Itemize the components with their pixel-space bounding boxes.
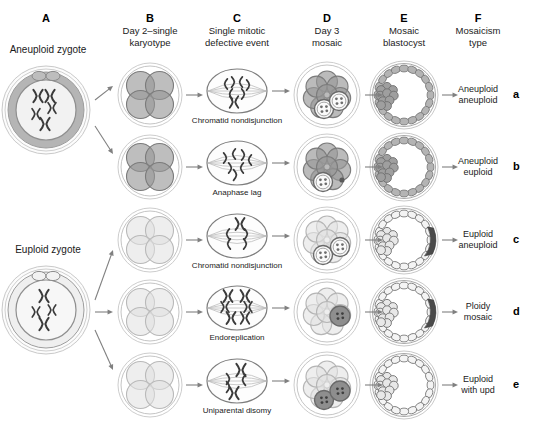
day3-mosaic-row-e [290, 348, 364, 422]
column-caption: Mosaicism type [423, 25, 533, 48]
arrow-zygote1-row-b [87, 118, 121, 162]
row-letter-d: d [513, 305, 520, 317]
arrow-e-f-row-c [434, 232, 466, 248]
column-letter: F [423, 12, 533, 25]
zygote-aneuploid [0, 60, 96, 160]
arrow-b-c-row-e [178, 377, 211, 393]
arrow-zygote2-row-d [87, 304, 121, 320]
zygote-label-euploid: Euploid zygote [0, 244, 96, 255]
arrow-e-f-row-e [434, 377, 466, 393]
day3-mosaic-row-b [290, 130, 364, 204]
row-letter-b: b [513, 160, 520, 172]
arrow-d-e-row-c [357, 232, 391, 248]
day3-mosaic-row-c [290, 203, 364, 277]
diagram-canvas: ABDay 2–single karyotypeCSingle mitotic … [0, 0, 534, 428]
spindle-row-c [203, 208, 271, 264]
spindle-row-a [203, 63, 271, 119]
event-label-row-a: Chromatid nondisjunction [167, 116, 307, 125]
event-label-row-d: Endoreplication [167, 333, 307, 342]
arrow-e-f-row-a [434, 87, 466, 103]
arrow-d-e-row-d [357, 304, 391, 320]
row-letter-c: c [513, 233, 519, 245]
arrow-c-d-row-b [264, 155, 298, 171]
arrow-c-d-row-e [264, 373, 298, 389]
arrow-b-c-row-d [178, 304, 211, 320]
zygote-label-aneuploid: Aneuploid zygote [0, 44, 96, 55]
zygote-euploid [0, 260, 96, 360]
column-header-f: FMosaicism type [423, 12, 533, 48]
arrow-b-c-row-c [178, 232, 211, 248]
row-letter-e: e [513, 378, 519, 390]
day3-mosaic-row-d [290, 275, 364, 349]
spindle-row-e [203, 353, 271, 409]
column-header-a: A [0, 12, 101, 25]
arrow-c-d-row-d [264, 300, 298, 316]
event-label-row-b: Anaphase lag [167, 188, 307, 197]
spindle-row-d [203, 280, 271, 336]
row-letter-a: a [513, 88, 519, 100]
arrow-c-d-row-a [264, 83, 298, 99]
arrow-d-e-row-a [357, 87, 391, 103]
event-label-row-c: Chromatid nondisjunction [167, 261, 307, 270]
arrow-e-f-row-d [434, 304, 466, 320]
day3-mosaic-row-a [290, 58, 364, 132]
column-letter: A [0, 12, 101, 25]
arrow-zygote2-row-e [87, 322, 121, 378]
arrow-zygote2-row-c [87, 242, 121, 308]
arrow-b-c-row-b [178, 159, 211, 175]
arrow-b-c-row-a [178, 87, 211, 103]
arrow-d-e-row-b [357, 159, 391, 175]
spindle-row-b [203, 135, 271, 191]
arrow-c-d-row-c [264, 228, 298, 244]
event-label-row-e: Uniparental disomy [167, 406, 307, 415]
arrow-d-e-row-e [357, 377, 391, 393]
arrow-zygote1-row-a [87, 78, 121, 108]
arrow-e-f-row-b [434, 159, 466, 175]
